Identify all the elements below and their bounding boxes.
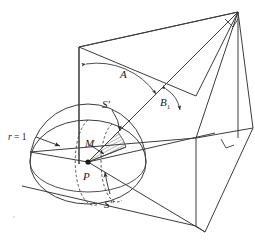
right-plane-ridge bbox=[196, 128, 253, 138]
label-s-prime: S′ bbox=[102, 98, 111, 110]
label-point-p: P bbox=[82, 170, 90, 182]
right-plane-outer-edge bbox=[238, 12, 253, 128]
right-angle-marker-right-plane bbox=[221, 139, 234, 148]
label-angle-a: A bbox=[119, 68, 127, 80]
point-p-marker bbox=[85, 159, 90, 164]
figure-canvas: r = 1 A B1 P M S′ S″ bbox=[0, 0, 255, 240]
label-s-double-prime: S″ bbox=[104, 198, 115, 210]
leader-radius bbox=[36, 137, 60, 146]
label-radius: r = 1 bbox=[8, 132, 27, 142]
geometry-figure: r = 1 A B1 P M S′ S″ bbox=[0, 0, 255, 240]
right-plane-far-edge bbox=[205, 128, 253, 232]
ray-p-lower-right bbox=[88, 162, 205, 232]
plane-assembly bbox=[22, 12, 253, 232]
scan-speck bbox=[13, 216, 14, 217]
label-point-m: M bbox=[84, 137, 95, 149]
